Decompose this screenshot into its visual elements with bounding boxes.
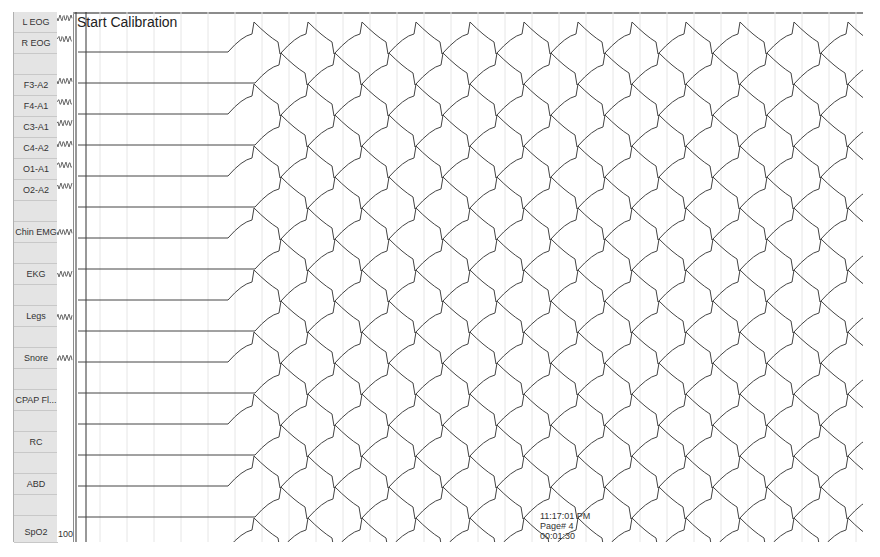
channel-label-abd[interactable]: ABD — [14, 474, 58, 495]
channel-label-ekg[interactable]: EKG — [14, 264, 58, 285]
page-number: Page# 4 — [540, 521, 590, 531]
channel-label-cpap-fl-[interactable]: CPAP Fl... — [14, 390, 58, 411]
channel-label-legs[interactable]: Legs — [14, 306, 58, 327]
channel-label-blank[interactable] — [14, 327, 58, 348]
channel-label-blank[interactable] — [14, 285, 58, 306]
channel-label-r-eog[interactable]: R EOG — [14, 33, 58, 54]
mini-traces — [57, 12, 73, 542]
channel-label-o2-a2[interactable]: O2-A2 — [14, 180, 58, 201]
channel-label-o1-a1[interactable]: O1-A1 — [14, 159, 58, 180]
channel-label-blank[interactable] — [14, 453, 58, 474]
channel-label-blank[interactable] — [14, 54, 58, 75]
clock-time: 11:17:01 PM — [540, 511, 590, 521]
mini-trace-column — [57, 12, 74, 542]
spo2-scale-value: 100 — [58, 529, 73, 539]
channel-label-blank[interactable] — [14, 411, 58, 432]
channel-label-f4-a1[interactable]: F4-A1 — [14, 96, 58, 117]
channel-label-f3-a2[interactable]: F3-A2 — [14, 75, 58, 96]
channel-label-spo2[interactable]: SpO2 — [14, 522, 58, 543]
page-info: 11:17:01 PM Page# 4 00:01:30 — [540, 511, 590, 541]
channel-label-c3-a1[interactable]: C3-A1 — [14, 117, 58, 138]
polysomnography-plot[interactable] — [73, 12, 863, 542]
channel-label-blank[interactable] — [14, 201, 58, 222]
channel-label-blank[interactable] — [14, 495, 58, 516]
elapsed-time: 00:01:30 — [540, 531, 590, 541]
channel-label-snore[interactable]: Snore — [14, 348, 58, 369]
channel-label-rc[interactable]: RC — [14, 432, 58, 453]
channel-label-c4-a2[interactable]: C4-A2 — [14, 138, 58, 159]
calibration-title: Start Calibration — [77, 14, 177, 30]
channel-label-chin-emg[interactable]: Chin EMG — [14, 222, 58, 243]
waveform-canvas — [73, 12, 863, 542]
channel-label-l-eog[interactable]: L EOG — [14, 12, 58, 33]
channel-label-column: L EOGR EOGF3-A2F4-A1C3-A1C4-A2O1-A1O2-A2… — [13, 12, 59, 542]
channel-label-blank[interactable] — [14, 243, 58, 264]
channel-label-blank[interactable] — [14, 369, 58, 390]
